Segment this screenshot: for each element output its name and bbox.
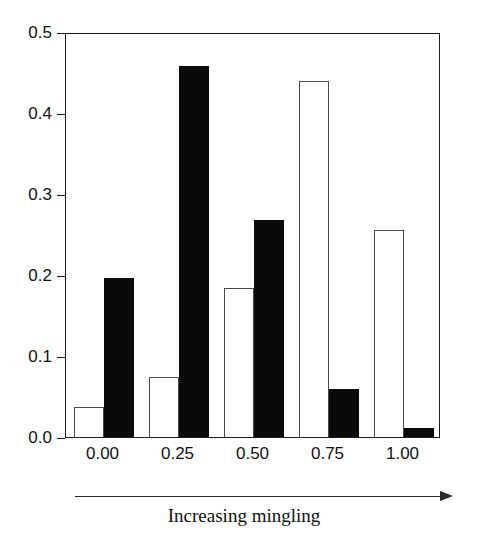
plot-area xyxy=(65,33,440,438)
y-tick-mark-5 xyxy=(57,33,65,34)
bar-hollow-0.25 xyxy=(149,377,179,437)
y-tick-mark-2 xyxy=(57,276,65,277)
increasing-mingling-arrow-icon xyxy=(75,491,453,503)
y-tick-label-4: 0.4 xyxy=(8,104,52,124)
bar-filled-0.00 xyxy=(104,278,134,437)
x-tick-label-1: 0.25 xyxy=(161,444,194,464)
arrow-head xyxy=(440,491,453,501)
x-tick-label-0: 0.00 xyxy=(86,444,119,464)
bar-filled-0.25 xyxy=(179,66,209,437)
bar-hollow-0.50 xyxy=(224,288,254,437)
y-tick-label-5: 0.5 xyxy=(8,23,52,43)
y-tick-mark-0 xyxy=(57,438,65,439)
y-tick-mark-1 xyxy=(57,357,65,358)
bar-hollow-1.00 xyxy=(374,230,404,437)
bar-hollow-0.75 xyxy=(299,81,329,437)
bar-hollow-0.00 xyxy=(74,407,104,437)
y-tick-label-2: 0.2 xyxy=(8,266,52,286)
x-tick-label-3: 0.75 xyxy=(311,444,344,464)
y-tick-mark-4 xyxy=(57,114,65,115)
x-tick-label-2: 0.50 xyxy=(236,444,269,464)
y-tick-label-3: 0.3 xyxy=(8,185,52,205)
arrow-shaft xyxy=(75,496,441,497)
x-tick-label-4: 1.00 xyxy=(386,444,419,464)
x-axis-label: Increasing mingling xyxy=(0,505,488,527)
x-axis-tick-labels: 0.000.250.500.751.00 xyxy=(0,444,488,470)
y-tick-mark-3 xyxy=(57,195,65,196)
bar-chart-figure: Proportions of trees 0.00.10.20.30.40.5 … xyxy=(0,0,488,541)
bar-filled-0.50 xyxy=(254,220,284,437)
bar-filled-0.75 xyxy=(329,389,359,437)
bar-filled-1.00 xyxy=(404,428,434,437)
y-tick-label-1: 0.1 xyxy=(8,347,52,367)
